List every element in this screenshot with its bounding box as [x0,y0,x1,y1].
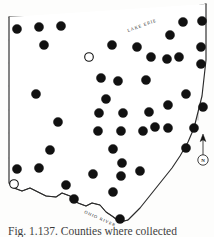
filled-circle-symbol [150,122,159,131]
filled-circle-symbol [181,89,190,98]
figure-container: LAKE ERIE OHIO RIVER N [0,0,214,237]
filled-circle-symbol [94,108,103,117]
filled-circle-symbol [101,94,110,103]
filled-circle-symbol [178,17,187,26]
filled-circle-symbol [116,126,125,135]
filled-circle-symbol [118,108,127,117]
filled-circle-symbol [113,76,122,85]
filled-circle-symbol [31,89,40,98]
filled-circle-symbol [12,24,21,33]
filled-circle-symbol [117,158,126,167]
filled-circle-symbol [53,117,62,126]
filled-circle-symbol [56,21,65,30]
filled-circle-symbol [138,126,147,135]
filled-circle-symbol [181,143,190,152]
compass-north-letter: N [201,158,205,163]
filled-circle-symbol [189,123,198,132]
ohio-county-map: LAKE ERIE OHIO RIVER N [0,0,214,237]
filled-circle-symbol [115,214,124,223]
ohio-state-outline [9,4,206,222]
filled-circle-symbol [108,144,117,153]
filled-circle-symbol [132,42,141,51]
figure-caption: Fig. 1.137. Counties where collected [8,227,177,237]
filled-circle-symbol [39,40,48,49]
filled-circle-symbol [146,52,155,61]
filled-circle-symbol [61,180,70,189]
filled-circle-symbol [96,73,105,82]
filled-circle-symbol [135,166,144,175]
north-arrow-icon: N [198,134,208,165]
filled-circle-symbol [107,40,116,49]
filled-circle-symbol [174,52,183,61]
filled-circle-symbol [93,126,102,135]
open-circle-symbol [10,180,19,189]
filled-circle-symbol [197,16,206,25]
figure-caption-area: Fig. 1.137. Counties where collected [0,227,214,237]
filled-circle-symbol [196,59,205,68]
filled-circle-symbol [198,102,207,111]
filled-circle-symbol [163,100,172,109]
filled-circle-symbol [34,22,43,31]
filled-circle-symbol [45,145,54,154]
filled-circle-symbol [69,194,78,203]
filled-circle-symbol [34,163,43,172]
filled-circle-symbol [12,164,21,173]
filled-circle-symbol [116,171,125,180]
filled-circle-symbol [196,42,205,51]
filled-circle-symbol [108,187,117,196]
filled-circle-symbol [144,107,153,116]
filled-circle-symbol [162,54,171,63]
filled-circle-symbol [88,169,97,178]
filled-circle-symbol [141,75,150,84]
open-circle-symbol [85,53,94,62]
filled-circle-symbol [165,30,174,39]
filled-circle-symbol [163,123,172,132]
